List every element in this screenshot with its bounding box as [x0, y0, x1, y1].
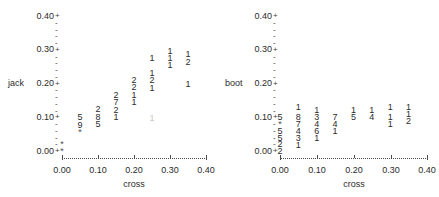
x-axis-tick [134, 155, 135, 158]
data-point-label: 2 [184, 58, 193, 67]
data-point-label: 1 [312, 134, 321, 143]
x-axis-tick [317, 155, 318, 158]
data-point-marker: * [76, 128, 85, 137]
data-point-label: 1 [148, 114, 157, 123]
data-point-label: 1 [331, 127, 340, 136]
data-point-label: 1 [294, 103, 303, 112]
data-point-label: 1 [112, 113, 121, 122]
data-point-label: 1 [386, 120, 395, 129]
data-point-label: 5 [94, 120, 103, 129]
data-point-label: 4 [367, 113, 376, 122]
x-axis-line [62, 158, 207, 160]
data-point-label: 5 [349, 113, 358, 122]
data-point-label: 1 [148, 84, 157, 93]
y-axis-major-tick [55, 12, 60, 20]
x-axis-tick [206, 155, 207, 160]
x-axis-title-cross: cross [334, 180, 374, 189]
x-axis-tick [391, 155, 392, 158]
x-axis-tick [62, 155, 63, 160]
data-point-label: 1 [166, 61, 175, 70]
x-axis-line [280, 158, 428, 160]
data-point-label: 1 [184, 80, 193, 89]
data-point-marker: * [58, 147, 67, 156]
x-axis-tick [170, 155, 171, 158]
x-axis-title-cross: cross [114, 180, 154, 189]
scatter-plot-figure: jack 0.40 0.30 0.20 0.10 0.00 0.00 0.10 … [0, 0, 439, 197]
x-axis-tick [280, 155, 281, 160]
y-axis-major-tick [273, 12, 278, 20]
data-point-label: 1 [130, 98, 139, 107]
x-axis-tick [354, 155, 355, 158]
data-point-label: 2 [276, 147, 285, 156]
data-point-label: 1 [148, 54, 157, 63]
data-point-label: 1 [294, 141, 303, 150]
x-axis-tick [427, 155, 428, 160]
panel-jack-vs-cross: jack 0.40 0.30 0.20 0.10 0.00 0.00 0.10 … [0, 0, 219, 197]
x-axis-tick [98, 155, 99, 158]
data-point-label: 2 [404, 117, 413, 126]
panel-boot-vs-cross: boot 0.40 0.30 0.20 0.10 0.00 0.00 0.10 … [220, 0, 439, 197]
data-point-label: 1 [386, 103, 395, 112]
